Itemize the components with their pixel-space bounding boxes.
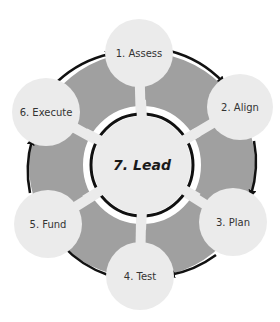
node-5: 5. Fund	[14, 190, 82, 258]
node-label-assess: 1. Assess	[116, 48, 163, 59]
node-6: 6. Execute	[12, 78, 80, 146]
node-label-fund: 5. Fund	[30, 219, 67, 230]
node-label-execute: 6. Execute	[20, 107, 73, 118]
cycle-diagram: 1. Assess 2. Align 3. Plan 4. Test 5. Fu…	[0, 0, 280, 322]
node-4: 4. Test	[106, 242, 174, 310]
node-label-test: 4. Test	[124, 271, 156, 282]
node-2: 2. Align	[207, 74, 273, 140]
center-label-lead: 7. Lead	[113, 157, 172, 173]
node-label-plan: 3. Plan	[216, 217, 250, 228]
node-1: 1. Assess	[105, 19, 173, 87]
node-3: 3. Plan	[199, 188, 267, 256]
node-label-align: 2. Align	[221, 102, 259, 113]
